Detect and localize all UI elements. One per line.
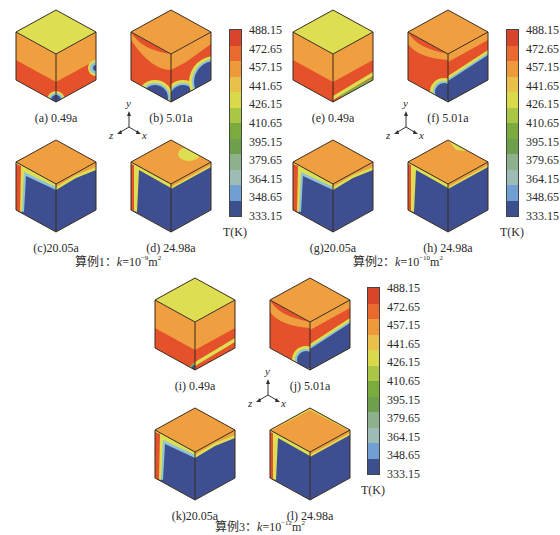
temperature-cube-plot [293, 10, 373, 102]
colorbar-tick: 379.65 [249, 153, 282, 168]
colorbar-tick: 426.15 [526, 97, 559, 112]
colorbar-tick: 379.65 [387, 411, 420, 426]
temperature-colorbar [367, 287, 380, 475]
colorbar-tick: 410.65 [387, 374, 420, 389]
temperature-colorbar [229, 29, 242, 217]
colorbar-tick: 410.65 [249, 116, 282, 131]
colorbar-tick: 426.15 [387, 355, 420, 370]
temperature-cube-plot [270, 278, 350, 370]
case-title-prefix: 算例3： [215, 520, 257, 534]
temperature-cube-plot [16, 140, 96, 232]
axis-triad-icon: y z x [109, 103, 149, 143]
axis-triad-icon: y z x [248, 371, 288, 411]
temperature-cube-plot [155, 278, 235, 370]
panel-caption: (a) 0.49a [35, 111, 78, 126]
temperature-cube-plot [131, 140, 211, 232]
colorbar-tick: 488.15 [249, 23, 282, 38]
colorbar-tick: 472.65 [526, 41, 559, 56]
colorbar-tick: 441.65 [249, 78, 282, 93]
k-unit: m [148, 255, 157, 269]
panel-caption: (b) 5.01a [149, 111, 192, 126]
y-axis-label: y [126, 97, 131, 109]
colorbar-tick: 457.15 [387, 318, 420, 333]
colorbar-tick: 488.15 [387, 281, 420, 296]
panel-caption: (f) 5.01a [427, 111, 468, 126]
axis-triad-icon: y z x [386, 103, 426, 143]
colorbar-tick: 348.65 [249, 190, 282, 205]
colorbar-tick: 488.15 [526, 23, 559, 38]
temperature-colorbar [506, 29, 519, 217]
colorbar-tick: 441.65 [526, 78, 559, 93]
z-axis-label: z [109, 129, 113, 141]
temperature-cube-plot [408, 140, 488, 232]
case-title: 算例2：k=10−10m2 [353, 252, 443, 270]
k-unit: m [292, 520, 301, 534]
case-title: 算例1：k=10−9m2 [75, 252, 161, 270]
z-axis-label: z [386, 129, 390, 141]
colorbar-tick: 348.65 [387, 448, 420, 463]
temperature-cube-plot [408, 10, 488, 102]
k-unit-exponent: 2 [301, 519, 305, 527]
colorbar-tick: 364.15 [249, 171, 282, 186]
x-axis-label: x [142, 129, 147, 141]
colorbar-tick: 426.15 [249, 97, 282, 112]
k-exponent: −10 [419, 254, 430, 262]
panel-caption: (g)20.05a [310, 241, 356, 256]
colorbar-tick: 395.15 [249, 134, 282, 149]
temperature-cube-plot [293, 140, 373, 232]
temperature-cube-plot [270, 408, 350, 500]
k-equals: =10 [122, 255, 141, 269]
colorbar-tick: 441.65 [387, 336, 420, 351]
colorbar-tick: 395.15 [387, 392, 420, 407]
colorbar-tick: 395.15 [526, 134, 559, 149]
temperature-cube-plot [131, 10, 211, 102]
panel-caption: (e) 0.49a [312, 111, 355, 126]
y-axis-label: y [403, 97, 408, 109]
x-axis-label: x [419, 129, 424, 141]
colorbar-tick: 364.15 [526, 171, 559, 186]
colorbar-tick: 410.65 [526, 116, 559, 131]
z-axis-label: z [248, 397, 252, 409]
y-axis-label: y [265, 365, 270, 377]
k-unit-exponent: 2 [439, 254, 443, 262]
colorbar-unit-label: T(K) [500, 225, 524, 240]
x-axis-label: x [281, 397, 286, 409]
colorbar-tick: 364.15 [387, 429, 420, 444]
k-exponent: −12 [281, 519, 292, 527]
case-title-prefix: 算例1： [75, 255, 117, 269]
colorbar-tick: 333.15 [526, 209, 559, 224]
case-title-prefix: 算例2： [353, 255, 395, 269]
colorbar-tick: 457.15 [526, 60, 559, 75]
k-equals: =10 [400, 255, 419, 269]
panel-caption: (j) 5.01a [290, 379, 331, 394]
panel-caption: (i) 0.49a [175, 379, 216, 394]
colorbar-tick: 457.15 [249, 60, 282, 75]
colorbar-tick: 472.65 [249, 41, 282, 56]
panel-caption: (c)20.05a [33, 241, 79, 256]
panel-caption: (k)20.05a [172, 509, 218, 524]
temperature-cube-plot [16, 10, 96, 102]
colorbar-tick: 472.65 [387, 299, 420, 314]
temperature-cube-plot [155, 408, 235, 500]
colorbar-tick: 333.15 [249, 209, 282, 224]
colorbar-tick: 379.65 [526, 153, 559, 168]
k-exponent: −9 [141, 254, 148, 262]
case-title: 算例3：k=10−12m2 [215, 517, 305, 535]
colorbar-unit-label: T(K) [223, 225, 247, 240]
colorbar-tick: 333.15 [387, 467, 420, 482]
colorbar-unit-label: T(K) [361, 483, 385, 498]
k-equals: =10 [262, 520, 281, 534]
k-unit-exponent: 2 [158, 254, 162, 262]
colorbar-tick: 348.65 [526, 190, 559, 205]
k-unit: m [430, 255, 439, 269]
